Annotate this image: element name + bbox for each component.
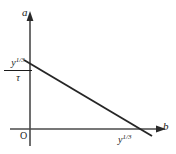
- y-intercept-numerator-exponent: 1/3: [16, 56, 25, 64]
- x-intercept-label: y1/3: [118, 134, 131, 145]
- x-axis-label: b: [163, 121, 169, 132]
- x-intercept-exponent: 1/3: [122, 133, 131, 141]
- y-intercept-numerator: y1/3: [4, 56, 32, 71]
- line-graph-figure: a b O y1/3 τ y1/3: [0, 0, 176, 154]
- origin-label: O: [20, 131, 27, 141]
- y-intercept-label: y1/3 τ: [4, 56, 32, 83]
- y-axis-label: a: [22, 7, 28, 18]
- y-intercept-denominator: τ: [4, 71, 32, 84]
- data-line-a-vs-b: [24, 60, 152, 136]
